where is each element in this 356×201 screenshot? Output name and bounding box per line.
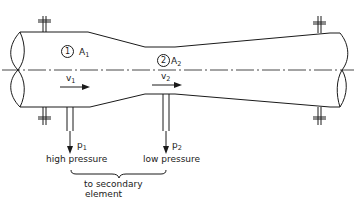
- brace: [71, 170, 166, 178]
- section-2-marker: 2: [157, 54, 170, 67]
- pressure-tap-2: [163, 94, 169, 150]
- arrowhead-v2: [174, 82, 182, 88]
- low-pressure-label: low pressure: [143, 155, 200, 164]
- flange-tap-right-top: [313, 16, 326, 33]
- pressure-2-subscript: 2: [178, 144, 182, 152]
- flange-tap-left-bottom: [38, 107, 51, 125]
- velocity-2-subscript: 2: [166, 75, 170, 83]
- high-pressure-label: high pressure: [46, 155, 107, 164]
- arrowhead-v1: [82, 84, 90, 90]
- arrowhead-p2: [163, 146, 169, 154]
- pressure-1-label: p1: [77, 141, 87, 152]
- right-pipe-end-back: [340, 70, 346, 107]
- flange-tap-left-top: [38, 16, 51, 32]
- left-pipe-end-inner: [18, 32, 24, 107]
- velocity-2-label: v2: [161, 72, 170, 83]
- secondary-element-label-line1: to secondary: [84, 180, 143, 189]
- pressure-tap-1: [67, 107, 73, 150]
- arrowhead-p1: [67, 146, 73, 154]
- pipe-bottom-outline: [20, 94, 340, 107]
- secondary-element-label-line2: element: [85, 190, 122, 199]
- area-1-subscript: 1: [85, 51, 89, 59]
- area-2-subscript: 2: [177, 60, 181, 68]
- venturi-diagram: [0, 0, 356, 201]
- pressure-1-subscript: 1: [83, 144, 87, 152]
- pressure-2-label: p2: [172, 141, 182, 152]
- section-1-marker: 1: [61, 45, 74, 58]
- velocity-1-label: v1: [66, 74, 75, 85]
- flange-tap-right-bottom: [313, 107, 326, 125]
- area-1-label: A1: [79, 48, 89, 59]
- area-2-label: A2: [171, 57, 181, 68]
- velocity-1-subscript: 1: [71, 77, 75, 85]
